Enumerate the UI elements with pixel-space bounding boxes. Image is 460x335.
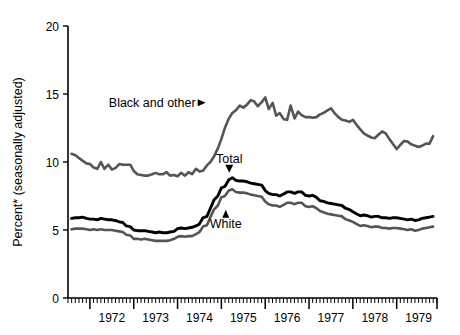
series-layer	[72, 97, 434, 240]
x-tick-label-1972: 1972	[98, 311, 125, 325]
chart-canvas: 05101520 1972197319741975197619771978197…	[0, 0, 460, 335]
annotation-label-black-and-other: Black and other	[109, 96, 196, 110]
y-tick-label-0: 0	[52, 292, 59, 306]
annotation-arrow-black-and-other	[198, 99, 206, 106]
x-tick-label-1977: 1977	[318, 311, 345, 325]
annotation-label-white: White	[210, 217, 242, 231]
x-axis: 19721973197419751976197719781979	[68, 298, 437, 325]
x-tick-label-1973: 1973	[142, 311, 169, 325]
annotation-arrow-white	[222, 210, 229, 218]
y-axis-title-text: Percent* (seasonally adjusted)	[11, 77, 25, 247]
y-axis: 05101520	[46, 20, 68, 306]
series-line-total	[72, 178, 434, 233]
y-tick-label-15: 15	[46, 88, 60, 102]
y-tick-label-10: 10	[46, 156, 60, 170]
x-tick-label-1975: 1975	[230, 311, 257, 325]
annotation-arrow-total	[225, 165, 233, 173]
annotation-label-total: Total	[216, 152, 242, 166]
x-tick-label-1979: 1979	[405, 311, 432, 325]
annotation-layer: Black and otherTotalWhite	[109, 96, 243, 231]
x-tick-label-1976: 1976	[274, 311, 301, 325]
y-tick-label-5: 5	[52, 224, 59, 238]
y-tick-label-20: 20	[46, 20, 60, 34]
x-tick-label-1974: 1974	[186, 311, 213, 325]
unemployment-rate-chart: 05101520 1972197319741975197619771978197…	[0, 0, 460, 335]
x-tick-label-1978: 1978	[361, 311, 388, 325]
series-line-white	[72, 189, 434, 241]
y-axis-title: Percent* (seasonally adjusted)	[11, 77, 25, 247]
